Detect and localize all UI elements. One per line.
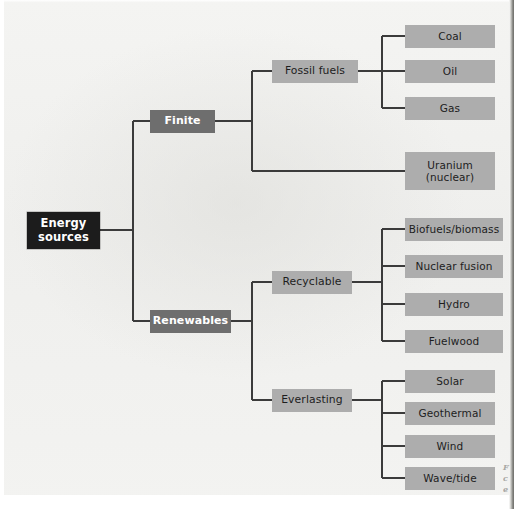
node-finite[interactable]: Finite	[150, 110, 215, 133]
node-fossil-fuels[interactable]: Fossil fuels	[272, 60, 358, 83]
paper-edge-top	[0, 0, 514, 3]
node-coal[interactable]: Coal	[405, 25, 495, 48]
node-energy-sources[interactable]: Energy sources	[27, 212, 100, 249]
node-recyclable[interactable]: Recyclable	[272, 271, 352, 294]
node-wave-tide[interactable]: Wave/tide	[405, 467, 495, 490]
node-wind[interactable]: Wind	[405, 435, 495, 458]
node-oil[interactable]: Oil	[405, 60, 495, 83]
page-binding-strip	[509, 0, 514, 509]
node-gas[interactable]: Gas	[405, 97, 495, 120]
caption-fragment-line3: e	[503, 484, 508, 494]
paper-edge-left	[0, 0, 4, 509]
node-nuclear-fusion[interactable]: Nuclear fusion	[405, 255, 503, 278]
paper-edge-bottom	[0, 495, 514, 509]
diagram-canvas: Energy sources Finite Renewables Fossil …	[0, 0, 514, 509]
caption-fragment-line1: F	[503, 462, 509, 472]
node-uranium-nuclear[interactable]: Uranium (nuclear)	[405, 152, 495, 190]
node-everlasting[interactable]: Everlasting	[272, 389, 352, 412]
node-geothermal[interactable]: Geothermal	[405, 402, 495, 425]
node-fuelwood[interactable]: Fuelwood	[405, 330, 503, 353]
caption-fragment-line2: c	[503, 473, 508, 483]
node-renewables[interactable]: Renewables	[150, 310, 231, 333]
node-solar[interactable]: Solar	[405, 370, 495, 393]
node-biofuels-biomass[interactable]: Biofuels/biomass	[405, 218, 503, 241]
node-hydro[interactable]: Hydro	[405, 293, 503, 316]
